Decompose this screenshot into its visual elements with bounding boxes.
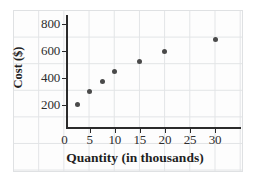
data-point xyxy=(112,69,117,74)
y-axis-tick-label: 400 xyxy=(30,71,60,84)
x-axis-tick-label: 10 xyxy=(102,133,128,147)
data-point xyxy=(75,102,80,107)
y-axis-tick-label-wrap: 800 xyxy=(28,17,60,30)
y-axis-tick xyxy=(62,51,67,52)
y-axis-tick-label-wrap: 200 xyxy=(28,98,60,111)
data-point xyxy=(100,79,105,84)
y-axis-tick xyxy=(62,24,67,25)
data-point xyxy=(87,89,92,94)
y-axis-title: Cost ($) xyxy=(11,28,26,108)
y-axis-tick xyxy=(62,78,67,79)
y-axis-tick-label: 800 xyxy=(30,17,60,30)
plot-area: 200400600800 051015202530 Cost ($) Quant… xyxy=(0,0,257,183)
scatter-plot-figure: 200400600800 051015202530 Cost ($) Quant… xyxy=(0,0,257,183)
data-point xyxy=(162,49,167,54)
data-point xyxy=(213,37,218,42)
y-axis-tick-label: 600 xyxy=(30,44,60,57)
x-axis-tick-label: 25 xyxy=(177,133,203,147)
y-axis-tick-label: 200 xyxy=(30,98,60,111)
y-axis-tick-label-wrap: 600 xyxy=(28,44,60,57)
y-axis-tick-label-wrap: 400 xyxy=(28,71,60,84)
data-point xyxy=(137,59,142,64)
y-axis-tick xyxy=(62,105,67,106)
x-axis-tick-label: 15 xyxy=(127,133,153,147)
x-axis-tick-label: 20 xyxy=(152,133,178,147)
x-axis-tick-label: 5 xyxy=(77,133,103,147)
x-axis-tick-label: 30 xyxy=(202,133,228,147)
x-axis-title: Quantity (in thousands) xyxy=(40,150,230,166)
x-axis-tick-label: 0 xyxy=(52,133,78,147)
y-axis-line xyxy=(66,15,68,129)
